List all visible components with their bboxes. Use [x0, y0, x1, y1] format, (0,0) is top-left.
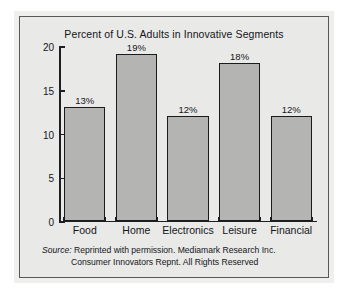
y-tick-label: 20	[43, 42, 54, 53]
x-axis-category-label: Financial	[270, 224, 312, 236]
bar-value-label: 12%	[282, 104, 301, 115]
y-tick-label: 5	[48, 173, 54, 184]
source-text-1: Reprinted with permission. Mediamark Res…	[74, 245, 276, 255]
bar: 12%Electronics	[167, 116, 208, 221]
source-note: Source: Reprinted with permission. Media…	[42, 245, 318, 268]
source-line-1: Source: Reprinted with permission. Media…	[42, 245, 318, 257]
x-axis-category-label: Leisure	[222, 224, 256, 236]
bar: 13%Food	[64, 107, 105, 221]
bar: 19%Home	[116, 54, 157, 220]
bar-value-label: 12%	[178, 104, 197, 115]
bar-value-label: 13%	[75, 95, 94, 106]
bar: 12%Financial	[271, 116, 312, 221]
source-label: Source:	[42, 245, 72, 255]
bar-value-label: 19%	[127, 42, 146, 53]
source-line-2: Consumer Innovators Repnt. All Rights Re…	[42, 257, 318, 269]
y-tick-label: 15	[43, 85, 54, 96]
y-tick-label: 0	[48, 217, 54, 228]
bar-value-label: 18%	[230, 51, 249, 62]
x-axis-category-label: Electronics	[162, 224, 213, 236]
y-tick-mark	[59, 46, 65, 48]
x-axis-category-label: Food	[73, 224, 97, 236]
bar: 18%Leisure	[219, 63, 260, 221]
x-axis-category-label: Home	[122, 224, 150, 236]
figure-frame: Percent of U.S. Adults in Innovative Seg…	[14, 11, 334, 283]
source-text-2: Consumer Innovators Repnt. All Rights Re…	[42, 257, 258, 267]
chart-title: Percent of U.S. Adults in Innovative Seg…	[20, 28, 328, 40]
y-tick-mark	[59, 90, 65, 92]
y-tick-label: 10	[43, 129, 54, 140]
figure-inner-border: Percent of U.S. Adults in Innovative Seg…	[19, 16, 329, 278]
plot-area: 05101520 13%Food19%Home12%Electronics18%…	[59, 47, 317, 222]
x-axis-line	[59, 221, 317, 223]
